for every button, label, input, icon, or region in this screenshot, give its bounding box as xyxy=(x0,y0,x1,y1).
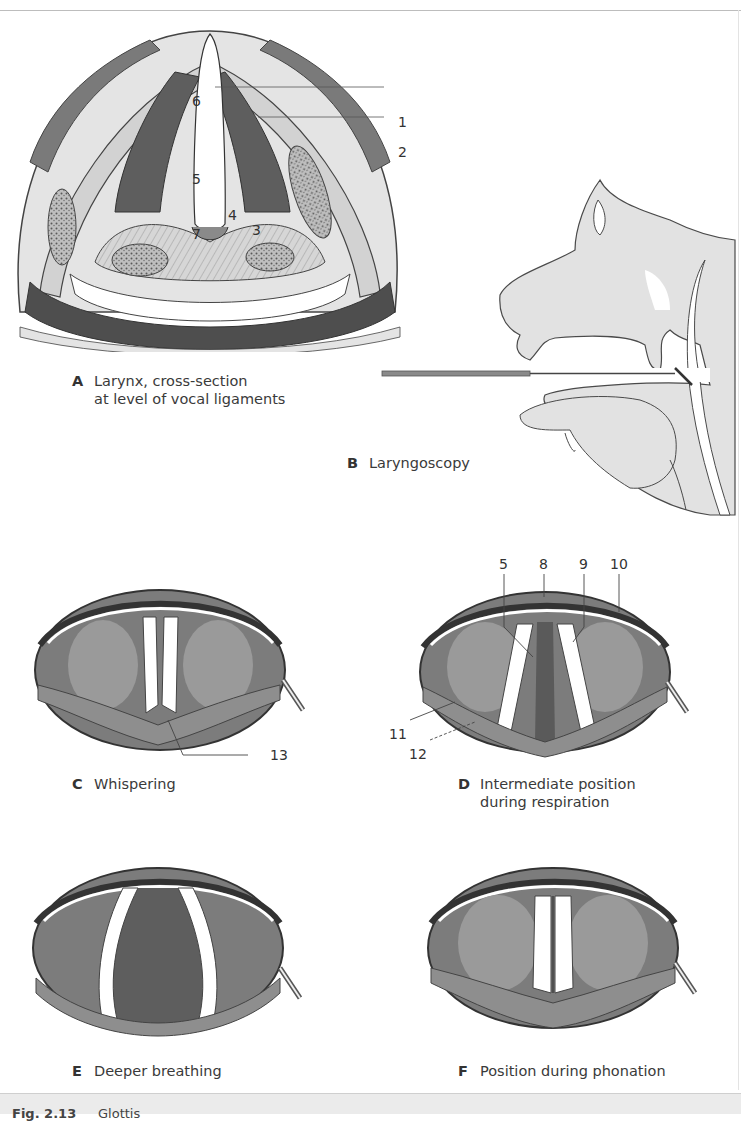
callout-9: 9 xyxy=(579,557,588,571)
caption-text: Position during phonation xyxy=(480,1063,666,1079)
figure-title: Glottis xyxy=(98,1106,140,1121)
panel-f-phonation xyxy=(413,858,713,1038)
figure-caption-bar: Fig. 2.13 Glottis xyxy=(0,1093,741,1114)
panel-d-intermediate: 5 8 9 10 11 12 xyxy=(405,552,705,762)
callout-12: 12 xyxy=(409,747,427,761)
glottis-deeper-breathing-illustration xyxy=(18,858,318,1038)
callout-13: 13 xyxy=(270,748,288,762)
top-rule xyxy=(0,10,741,11)
callout-4: 4 xyxy=(228,208,237,222)
caption-text: Larynx, cross-section xyxy=(94,373,248,389)
panel-e-deeper-breathing xyxy=(18,858,318,1038)
glottis-intermediate-illustration xyxy=(405,552,705,762)
panel-a-cross-section: 6 5 7 4 3 1 2 xyxy=(0,12,420,352)
caption-letter: C xyxy=(72,775,94,793)
caption-text: Whispering xyxy=(94,776,176,792)
caption-letter: A xyxy=(72,372,94,390)
caption-text: Deeper breathing xyxy=(94,1063,222,1079)
panel-c-whispering: 13 xyxy=(18,585,318,760)
glottis-whispering-illustration xyxy=(18,585,318,760)
caption-text: Intermediate position xyxy=(480,776,636,792)
glottis-phonation-illustration xyxy=(413,858,713,1038)
caption-text-line2: at level of vocal ligaments xyxy=(72,390,285,408)
caption-d: DIntermediate position during respiratio… xyxy=(458,775,636,811)
caption-c: CWhispering xyxy=(72,775,176,793)
callout-10: 10 xyxy=(610,557,628,571)
callout-6: 6 xyxy=(192,94,201,108)
figure-number: Fig. 2.13 xyxy=(12,1106,76,1121)
caption-letter: F xyxy=(458,1062,480,1080)
callout-2: 2 xyxy=(398,145,407,159)
callout-5: 5 xyxy=(499,557,508,571)
callout-11: 11 xyxy=(389,727,407,741)
larynx-cross-section-illustration xyxy=(0,12,420,352)
callout-8: 8 xyxy=(539,557,548,571)
caption-a: ALarynx, cross-section at level of vocal… xyxy=(72,372,285,408)
caption-b: BLaryngoscopy xyxy=(347,454,470,472)
callout-1: 1 xyxy=(398,115,407,129)
caption-e: EDeeper breathing xyxy=(72,1062,222,1080)
caption-f: FPosition during phonation xyxy=(458,1062,666,1080)
callout-7: 7 xyxy=(192,227,201,241)
callout-3: 3 xyxy=(252,223,261,237)
caption-text: Laryngoscopy xyxy=(369,455,470,471)
caption-letter: B xyxy=(347,454,369,472)
caption-letter: E xyxy=(72,1062,94,1080)
callout-5: 5 xyxy=(192,172,201,186)
caption-text-line2: during respiration xyxy=(458,793,636,811)
caption-letter: D xyxy=(458,775,480,793)
